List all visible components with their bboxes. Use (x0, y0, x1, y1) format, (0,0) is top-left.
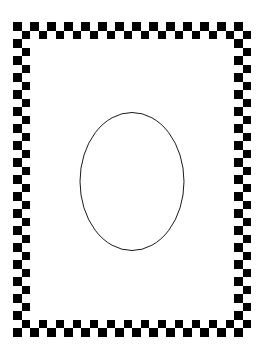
checker-cell (13, 73, 22, 82)
checker-cell (22, 184, 31, 193)
checker-cell (22, 218, 31, 227)
checker-cell (234, 294, 243, 303)
checker-cell (243, 116, 252, 125)
checker-cell (98, 22, 107, 31)
checker-cell (243, 48, 252, 57)
checker-cell (243, 184, 252, 193)
checker-cell (149, 22, 158, 31)
checker-cell (209, 320, 218, 329)
checker-cell (13, 175, 22, 184)
checker-cell (13, 328, 22, 337)
checker-cell (217, 22, 226, 31)
checker-cell (107, 320, 116, 329)
checker-cell (234, 277, 243, 286)
checker-cell (13, 141, 22, 150)
checker-cell (243, 133, 252, 142)
checker-cell (183, 328, 192, 337)
checker-cell (22, 167, 31, 176)
checker-cell (234, 175, 243, 184)
checker-cell (13, 277, 22, 286)
checker-cell (243, 286, 252, 295)
checker-cell (166, 22, 175, 31)
checker-cell (243, 218, 252, 227)
checker-cell (141, 31, 150, 40)
checker-cell (22, 150, 31, 159)
checker-cell (30, 328, 39, 337)
checker-cell (243, 167, 252, 176)
checker-cell (234, 209, 243, 218)
checker-cell (22, 48, 31, 57)
checker-cell (243, 252, 252, 261)
checker-cell (13, 294, 22, 303)
checker-cell (73, 31, 82, 40)
checker-cell (183, 22, 192, 31)
checker-cell (73, 320, 82, 329)
checker-cell (47, 328, 56, 337)
checker-cell (47, 22, 56, 31)
checker-cell (243, 269, 252, 278)
checkerboard-frame-figure: Checkerboard Frame with Ellipse (0, 0, 264, 362)
checker-cell (234, 39, 243, 48)
checker-cell (13, 107, 22, 116)
checker-cell (22, 320, 31, 329)
checker-cell (115, 22, 124, 31)
checker-cell (141, 320, 150, 329)
checker-cell (243, 82, 252, 91)
checker-cell (13, 192, 22, 201)
checker-cell (132, 328, 141, 337)
checker-cell (56, 31, 65, 40)
checker-cell (13, 56, 22, 65)
checker-cell (13, 22, 22, 31)
checker-cell (192, 320, 201, 329)
checker-cell (234, 107, 243, 116)
checker-cell (90, 31, 99, 40)
checker-cell (22, 201, 31, 210)
checker-cell (22, 133, 31, 142)
checker-cell (13, 39, 22, 48)
checker-cell (226, 31, 235, 40)
checker-cell (22, 303, 31, 312)
checker-cell (13, 226, 22, 235)
checker-cell (30, 22, 39, 31)
checker-cell (149, 328, 158, 337)
checker-cell (22, 269, 31, 278)
checker-cell (13, 209, 22, 218)
checker-cell (22, 82, 31, 91)
checker-cell (132, 22, 141, 31)
checker-cell (22, 31, 31, 40)
checker-cell (22, 286, 31, 295)
artboard-canvas: Checkerboard Frame with Ellipse (0, 0, 264, 362)
checker-cell (209, 31, 218, 40)
checker-cell (243, 303, 252, 312)
checker-cell (234, 56, 243, 65)
checker-cell (192, 31, 201, 40)
checker-cell (22, 116, 31, 125)
checker-cell (217, 328, 226, 337)
checker-cell (243, 99, 252, 108)
checker-cell (39, 31, 48, 40)
checker-cell (200, 22, 209, 31)
checker-cell (234, 328, 243, 337)
checker-cell (226, 320, 235, 329)
checker-cell (175, 320, 184, 329)
checker-cell (13, 124, 22, 133)
checker-cell (81, 22, 90, 31)
checker-cell (124, 31, 133, 40)
checker-cell (158, 320, 167, 329)
checker-cell (107, 31, 116, 40)
checker-cell (234, 311, 243, 320)
checker-cell (115, 328, 124, 337)
checker-cell (243, 65, 252, 74)
checker-cell (39, 320, 48, 329)
checker-cell (166, 328, 175, 337)
frame-interior (30, 39, 233, 319)
checker-cell (234, 226, 243, 235)
checker-cell (158, 31, 167, 40)
checker-cell (13, 311, 22, 320)
checker-cell (243, 320, 252, 329)
checker-cell (56, 320, 65, 329)
checker-cell (234, 141, 243, 150)
checker-cell (22, 252, 31, 261)
checker-cell (243, 235, 252, 244)
checker-cell (243, 150, 252, 159)
